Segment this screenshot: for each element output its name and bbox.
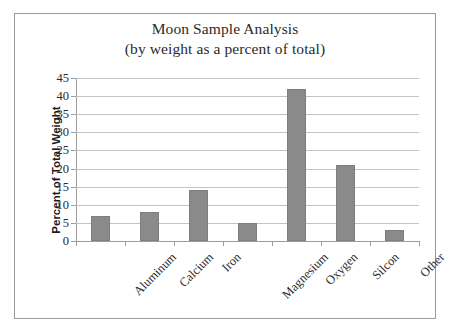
bar (140, 212, 160, 241)
y-axis-tick-label: 5 (63, 215, 69, 230)
gridline (76, 78, 419, 79)
bar (91, 216, 111, 241)
y-axis-tick-label: 45 (57, 71, 70, 86)
bar (189, 190, 209, 241)
plot-area: 454035302520151050 AluminumCalciumIronMa… (76, 78, 419, 241)
y-axis-tick (71, 205, 76, 206)
x-axis-label: Silcon (369, 250, 402, 283)
chart-figure: Moon Sample Analysis (by weight as a per… (14, 13, 436, 319)
gridline (76, 96, 419, 97)
y-axis-tick-label: 25 (57, 143, 70, 158)
gridline (76, 241, 419, 242)
gridline (76, 169, 419, 170)
x-axis-tick (272, 241, 273, 246)
gridline (76, 132, 419, 133)
chart-subtitle: (by weight as a percent of total) (15, 39, 435, 59)
x-axis-tick (174, 241, 175, 246)
y-axis-tick (71, 114, 76, 115)
chart-title: Moon Sample Analysis (15, 19, 435, 39)
x-axis-label: Other (417, 250, 448, 281)
gridline (76, 150, 419, 151)
x-axis-label: Oxygen (322, 250, 361, 289)
y-axis-tick-label: 10 (57, 197, 70, 212)
y-axis-tick (71, 187, 76, 188)
y-axis-tick (71, 223, 76, 224)
y-axis-tick (71, 169, 76, 170)
chart-title-block: Moon Sample Analysis (by weight as a per… (15, 19, 435, 59)
x-axis-tick (370, 241, 371, 246)
y-axis-tick-label: 15 (57, 179, 70, 194)
y-axis-tick-label: 0 (63, 234, 69, 249)
bar (385, 230, 405, 241)
x-axis-tick (76, 241, 77, 246)
x-axis-label: Iron (219, 250, 244, 275)
y-axis-tick (71, 150, 76, 151)
y-axis-tick-label: 40 (57, 89, 70, 104)
y-axis-tick (71, 132, 76, 133)
y-axis-tick-label: 30 (57, 125, 70, 140)
bar (287, 89, 307, 241)
bar (336, 165, 356, 241)
x-axis-tick (419, 241, 420, 246)
x-axis-tick (223, 241, 224, 246)
x-axis-label: Aluminum (130, 250, 179, 299)
y-axis-line (76, 78, 77, 241)
x-axis-label: Calcium (176, 250, 217, 291)
x-axis-tick (321, 241, 322, 246)
y-axis-tick-label: 20 (57, 161, 70, 176)
x-axis-tick (125, 241, 126, 246)
bar (238, 223, 258, 241)
y-axis-tick (71, 96, 76, 97)
y-axis-tick-label: 35 (57, 107, 70, 122)
y-axis-tick (71, 78, 76, 79)
gridline (76, 205, 419, 206)
gridline (76, 187, 419, 188)
gridline (76, 114, 419, 115)
